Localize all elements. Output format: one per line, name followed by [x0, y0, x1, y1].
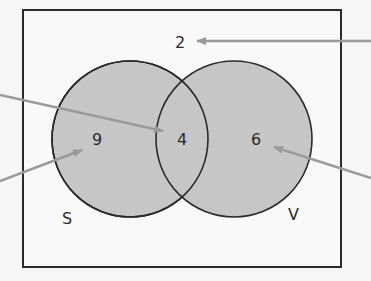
right-only-count: 6 — [251, 130, 261, 149]
outside-count: 2 — [175, 33, 185, 52]
venn-diagram: 2 9 4 6 S V — [0, 0, 371, 281]
set-v-label: V — [288, 205, 299, 224]
left-only-count: 9 — [92, 130, 102, 149]
intersection-count: 4 — [177, 130, 187, 149]
set-s-label: S — [62, 209, 72, 228]
